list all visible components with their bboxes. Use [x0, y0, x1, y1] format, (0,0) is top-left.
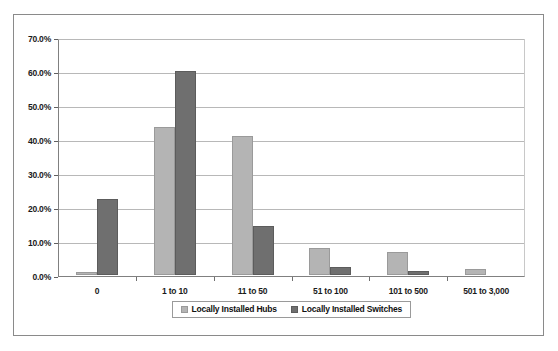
gridline — [59, 39, 524, 40]
y-axis-tick-mark — [54, 39, 58, 40]
y-axis-tick-mark — [54, 141, 58, 142]
gridline — [59, 73, 524, 74]
x-axis-tick-mark — [447, 277, 448, 281]
x-axis-tick-mark — [292, 277, 293, 281]
legend-entry-0: Locally Installed Hubs — [181, 304, 277, 314]
legend-label: Locally Installed Switches — [302, 304, 402, 314]
gridline — [59, 209, 524, 210]
x-axis-tick-mark — [136, 277, 137, 281]
plot-area — [58, 39, 525, 277]
bar-1-1 — [175, 71, 196, 275]
y-axis-tick-label: 40.0% — [7, 136, 51, 146]
x-axis-tick-label: 0 — [58, 286, 136, 296]
x-axis-tick-label: 51 to 100 — [292, 286, 370, 296]
bar-1-3 — [330, 267, 351, 276]
gridline — [59, 243, 524, 244]
x-axis-tick-label: 101 to 500 — [369, 286, 447, 296]
y-axis-tick-label: 10.0% — [7, 238, 51, 248]
bar-1-0 — [97, 199, 118, 275]
x-axis-tick-mark — [214, 277, 215, 281]
y-axis-tick-label: 50.0% — [7, 102, 51, 112]
x-axis-tick-label: 501 to 3,000 — [447, 286, 525, 296]
x-axis-tick-label: 11 to 50 — [214, 286, 292, 296]
y-axis-tick-mark — [54, 107, 58, 108]
legend-swatch-icon — [181, 306, 188, 313]
bar-0-1 — [154, 127, 175, 275]
x-axis-tick-label: 1 to 10 — [136, 286, 214, 296]
bar-1-4 — [408, 271, 429, 275]
bar-0-4 — [387, 252, 408, 275]
y-axis-tick-label: 70.0% — [7, 34, 51, 44]
y-axis-tick-mark — [54, 209, 58, 210]
y-axis-tick-label: 30.0% — [7, 170, 51, 180]
y-axis-tick-label: 20.0% — [7, 204, 51, 214]
x-axis-tick-mark — [369, 277, 370, 281]
y-axis-tick-label: 0.0% — [7, 272, 51, 282]
bar-0-3 — [309, 248, 330, 275]
y-axis-tick-label: 60.0% — [7, 68, 51, 78]
chart-frame: 0.0%10.0%20.0%30.0%40.0%50.0%60.0%70.0% … — [13, 14, 544, 336]
bar-0-2 — [232, 136, 253, 275]
legend-swatch-icon — [291, 306, 298, 313]
bar-1-2 — [253, 226, 274, 275]
gridline — [59, 141, 524, 142]
y-axis-tick-mark — [54, 277, 58, 278]
gridline — [59, 175, 524, 176]
y-axis-tick-mark — [54, 243, 58, 244]
y-axis-tick-mark — [54, 73, 58, 74]
gridline — [59, 107, 524, 108]
legend-entry-1: Locally Installed Switches — [291, 304, 402, 314]
bar-0-0 — [76, 272, 97, 275]
y-axis-tick-mark — [54, 175, 58, 176]
legend-label: Locally Installed Hubs — [192, 304, 277, 314]
bar-0-5 — [465, 269, 486, 275]
chart-legend: Locally Installed HubsLocally Installed … — [172, 301, 412, 318]
